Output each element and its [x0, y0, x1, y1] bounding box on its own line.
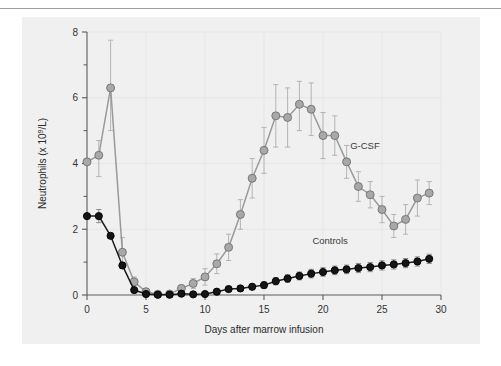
y-tick-label: 2 [72, 224, 78, 235]
neutrophil-recovery-line-chart: 02468051015202530Days after marrow infus… [22, 17, 480, 344]
data-point-g-csf[interactable] [331, 132, 339, 140]
data-point-controls[interactable] [201, 290, 208, 297]
data-point-g-csf[interactable] [260, 146, 268, 154]
data-point-controls[interactable] [284, 275, 291, 282]
data-point-g-csf[interactable] [284, 113, 292, 121]
data-point-g-csf[interactable] [213, 260, 221, 268]
data-point-controls[interactable] [213, 288, 220, 295]
x-tick-label: 30 [435, 304, 447, 315]
data-point-controls[interactable] [154, 291, 161, 298]
data-point-controls[interactable] [166, 291, 173, 298]
data-point-controls[interactable] [249, 283, 256, 290]
data-point-controls[interactable] [331, 267, 338, 274]
data-point-controls[interactable] [308, 270, 315, 277]
data-point-g-csf[interactable] [354, 183, 362, 191]
data-point-g-csf[interactable] [118, 248, 126, 256]
data-point-controls[interactable] [131, 286, 138, 293]
y-tick-label: 4 [72, 158, 78, 169]
data-point-controls[interactable] [237, 285, 244, 292]
y-axis-title: Neutrophils (x 109/L) [37, 118, 49, 209]
data-point-controls[interactable] [319, 268, 326, 275]
data-point-g-csf[interactable] [319, 132, 327, 140]
y-tick-label: 6 [72, 92, 78, 103]
data-point-controls[interactable] [378, 262, 385, 269]
y-tick-label: 0 [72, 290, 78, 301]
data-point-g-csf[interactable] [378, 206, 386, 214]
page-top-rule [0, 8, 501, 9]
x-tick-label: 20 [317, 304, 329, 315]
chart-panel: 02468051015202530Days after marrow infus… [22, 17, 480, 344]
data-point-g-csf[interactable] [425, 189, 433, 197]
x-axis-title: Days after marrow infusion [205, 324, 324, 335]
y-tick-label: 8 [72, 27, 78, 38]
data-point-g-csf[interactable] [107, 84, 115, 92]
data-point-controls[interactable] [178, 290, 185, 297]
data-point-controls[interactable] [402, 260, 409, 267]
data-point-g-csf[interactable] [366, 191, 374, 199]
series-annotation-g-csf: G-CSF [350, 140, 380, 151]
data-point-controls[interactable] [107, 232, 114, 239]
data-point-g-csf[interactable] [402, 215, 410, 223]
data-point-controls[interactable] [367, 263, 374, 270]
x-tick-label: 5 [143, 304, 149, 315]
x-tick-label: 15 [258, 304, 270, 315]
data-point-g-csf[interactable] [413, 194, 421, 202]
series-line-g-csf [87, 88, 429, 294]
data-point-controls[interactable] [426, 255, 433, 262]
data-point-controls[interactable] [343, 266, 350, 273]
data-point-g-csf[interactable] [343, 158, 351, 166]
data-point-controls[interactable] [355, 264, 362, 271]
data-point-g-csf[interactable] [189, 279, 197, 287]
data-point-controls[interactable] [414, 258, 421, 265]
data-point-g-csf[interactable] [201, 273, 209, 281]
data-point-controls[interactable] [83, 213, 90, 220]
data-point-controls[interactable] [190, 291, 197, 298]
x-tick-label: 25 [376, 304, 388, 315]
data-point-controls[interactable] [142, 290, 149, 297]
data-point-g-csf[interactable] [83, 158, 91, 166]
data-point-controls[interactable] [95, 213, 102, 220]
data-point-controls[interactable] [260, 282, 267, 289]
series-annotation-controls: Controls [312, 235, 348, 246]
data-point-controls[interactable] [225, 285, 232, 292]
x-tick-label: 10 [199, 304, 211, 315]
figure-page: 02468051015202530Days after marrow infus… [0, 0, 501, 366]
data-point-controls[interactable] [119, 262, 126, 269]
data-point-controls[interactable] [272, 278, 279, 285]
data-point-g-csf[interactable] [248, 174, 256, 182]
x-tick-label: 0 [84, 304, 90, 315]
data-point-g-csf[interactable] [295, 100, 303, 108]
data-point-g-csf[interactable] [390, 222, 398, 230]
data-point-g-csf[interactable] [307, 105, 315, 113]
data-point-g-csf[interactable] [272, 112, 280, 120]
data-point-controls[interactable] [296, 272, 303, 279]
data-point-g-csf[interactable] [236, 210, 244, 218]
data-point-g-csf[interactable] [225, 243, 233, 251]
data-point-g-csf[interactable] [95, 151, 103, 159]
data-point-controls[interactable] [390, 261, 397, 268]
